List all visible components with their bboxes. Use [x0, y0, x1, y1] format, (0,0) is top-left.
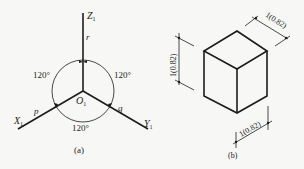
cube [204, 31, 267, 113]
x-coef-label: p [33, 106, 39, 116]
dimension-label-left: 1(0.82) [169, 53, 178, 77]
diagram-canvas: Z1 r 120° 120° 120° O1 p q X1 Y1 (a) 1(0… [0, 0, 304, 169]
angle-label-right: 120° [114, 70, 132, 80]
dimension-label-bottom: 1(0.82) [238, 119, 263, 139]
z-axis-label: Z1 [87, 10, 96, 22]
extension-line [175, 36, 194, 46]
extension-line [175, 80, 194, 90]
dimension-tick [285, 37, 287, 39]
dimension-tick [178, 81, 180, 83]
dimension-tick [235, 141, 237, 143]
caption-b: (b) [228, 151, 238, 160]
cube-top-face [204, 31, 267, 69]
dimension-tick [178, 37, 180, 39]
x-axis-label: X1 [13, 115, 23, 127]
caption-a: (a) [74, 145, 84, 155]
extension-line [275, 36, 290, 46]
dimension-left: 1(0.82) [169, 33, 194, 90]
cube-outline [204, 51, 267, 113]
dimension-label-top-right: 1(0.82) [264, 10, 289, 30]
dimension-tick [267, 122, 269, 124]
z-coef-label: r [86, 32, 90, 42]
origin-label: O1 [76, 95, 86, 107]
y-coef-label: q [118, 103, 123, 113]
dimension-tick [255, 17, 257, 19]
angle-label-left: 120° [33, 70, 51, 80]
angle-label-bottom: 120° [72, 123, 90, 133]
y-axis-label: Y1 [144, 118, 153, 130]
y-axis-line [83, 91, 148, 129]
figure-b: 1(0.82) 1(0.82) 1(0.82) (b) [169, 10, 290, 160]
figure-a: Z1 r 120° 120° 120° O1 p q X1 Y1 (a) [13, 10, 153, 155]
